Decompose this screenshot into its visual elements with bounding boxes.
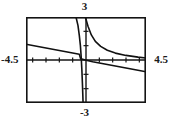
y-min-label: -3: [0, 107, 169, 118]
x-max-label: 4.5: [154, 54, 168, 65]
graph-figure: 3 -4.5 4.5 -3: [0, 0, 169, 121]
plot-canvas: [26, 17, 146, 103]
x-min-label: -4.5: [1, 54, 18, 65]
plot-area: [26, 17, 146, 103]
y-max-label: 3: [0, 1, 169, 12]
